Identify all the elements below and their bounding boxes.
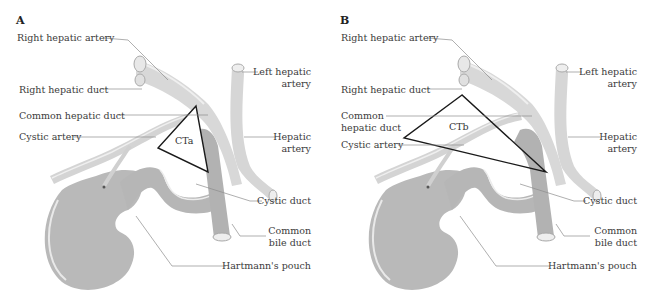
label-left-hepatic-artery-line1: Left hepatic: [579, 66, 637, 78]
label-right-hepatic-artery: Right hepatic artery: [17, 32, 114, 44]
label-common-bile-duct-line1: Common: [268, 225, 311, 237]
label-hartmanns-pouch: Hartmann's pouch: [548, 260, 637, 272]
label-left-hepatic-artery-line2: artery: [607, 78, 637, 90]
panel-a: A CTa Right hepatic artery Right hepatic…: [0, 0, 324, 297]
panel-b: B CTb Right hepatic artery Right hepatic…: [324, 0, 648, 297]
label-cystic-duct: Cystic duct: [583, 195, 637, 207]
label-common-hepatic-duct-line1: Common: [341, 110, 384, 122]
triangle-label-cta: CTa: [175, 135, 194, 146]
label-common-hepatic-duct: Common hepatic duct: [19, 110, 125, 122]
anatomy-illustration-a: [0, 0, 324, 297]
label-left-hepatic-artery-line1: Left hepatic: [253, 66, 311, 78]
label-hartmanns-pouch: Hartmann's pouch: [222, 260, 311, 272]
label-common-hepatic-duct-line2: hepatic duct: [341, 122, 401, 134]
label-right-hepatic-duct: Right hepatic duct: [19, 84, 108, 96]
right-hepatic-artery: [460, 60, 566, 186]
label-common-bile-duct-line2: bile duct: [269, 237, 311, 249]
label-cystic-duct: Cystic duct: [257, 195, 311, 207]
label-common-bile-duct-line1: Common: [594, 225, 637, 237]
label-cystic-artery: Cystic artery: [19, 131, 81, 143]
label-hepatic-artery-line1: Hepatic: [599, 131, 637, 143]
label-cystic-artery: Cystic artery: [341, 139, 403, 151]
label-right-hepatic-artery: Right hepatic artery: [341, 32, 438, 44]
panel-label-b: B: [340, 14, 349, 27]
label-hepatic-artery-line1: Hepatic: [273, 131, 311, 143]
label-left-hepatic-artery-line2: artery: [281, 78, 311, 90]
label-hepatic-artery-line2: artery: [607, 143, 637, 155]
label-hepatic-artery-line2: artery: [281, 143, 311, 155]
panel-label-a: A: [16, 14, 25, 27]
label-common-bile-duct-line2: bile duct: [595, 237, 637, 249]
label-right-hepatic-duct: Right hepatic duct: [341, 84, 430, 96]
triangle-label-ctb: CTb: [449, 121, 469, 132]
